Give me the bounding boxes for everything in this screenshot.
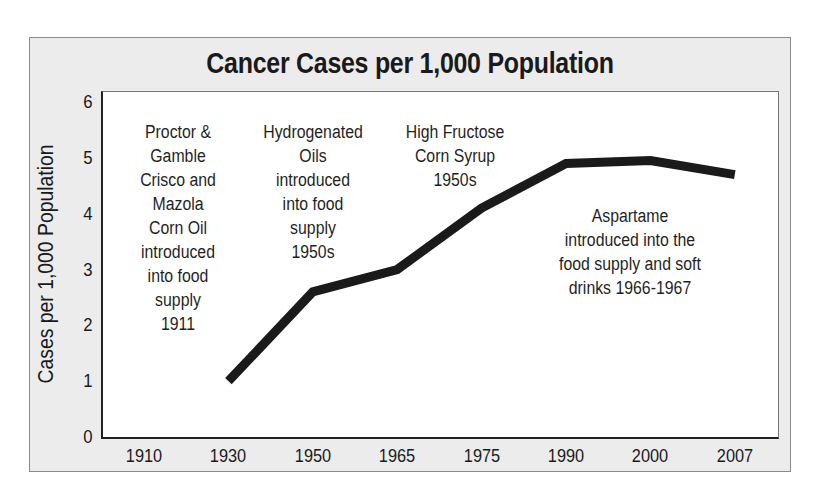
annotation-line: Gamble: [125, 144, 231, 168]
annotation-line: Corn Oil: [125, 216, 231, 240]
annotation-line: food supply and soft: [542, 252, 718, 276]
annotation-line: 1911: [125, 312, 231, 336]
annotation-line: Mazola: [125, 192, 231, 216]
annotation-line: introduced: [125, 240, 231, 264]
annotation-line: High Fructose: [389, 120, 521, 144]
annotation-line: supply: [251, 216, 374, 240]
annotation-line: Aspartame: [542, 204, 718, 228]
annotation-line: Proctor &: [125, 120, 231, 144]
annotation-hfcs: High FructoseCorn Syrup1950s: [389, 120, 521, 192]
annotation-line: Corn Syrup: [389, 144, 521, 168]
annotation-aspartame: Aspartameintroduced into thefood supply …: [542, 204, 718, 300]
annotation-line: drinks 1966-1967: [542, 276, 718, 300]
annotation-line: Hydrogenated: [251, 120, 374, 144]
annotation-line: introduced: [251, 168, 374, 192]
annotation-line: into food: [125, 264, 231, 288]
annotation-line: 1950s: [389, 168, 521, 192]
annotation-line: 1950s: [251, 240, 374, 264]
annotation-line: supply: [125, 288, 231, 312]
annotation-line: Oils: [251, 144, 374, 168]
annotation-line: introduced into the: [542, 228, 718, 252]
annotation-line: Crisco and: [125, 168, 231, 192]
annotation-hydrogenated-oils: HydrogenatedOilsintroducedinto foodsuppl…: [251, 120, 374, 264]
annotation-line: into food: [251, 192, 374, 216]
annotation-crisco: Proctor &GambleCrisco andMazolaCorn Oili…: [125, 120, 231, 336]
